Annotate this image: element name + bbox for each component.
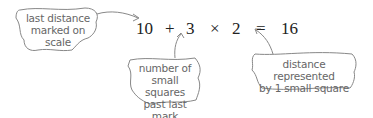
annotation-last-distance: last distance marked on scale [22,12,94,48]
equation-term-10: 10 [136,19,153,39]
annotation-line: marked on [22,24,94,36]
equation-times: × [210,19,220,39]
annotation-line: mark [132,110,198,118]
annotation-line: scale [22,36,94,48]
annotation-line: distance represented [254,58,354,82]
annotation-line: small squares [132,74,198,98]
equation-term-3: 3 [186,19,195,39]
annotation-small-squares: number of small squares past last mark [132,62,198,118]
arrow-to-10 [97,12,138,18]
equation-term-2: 2 [232,19,241,39]
equation-result-16: 16 [281,19,298,39]
annotation-distance-per-square: distance represented by 1 small square [254,58,354,94]
annotation-line: by 1 small square [254,82,354,94]
equation-plus: + [165,19,175,39]
equation-equals: = [256,19,266,39]
annotation-line: last distance [22,12,94,24]
annotation-line: past last [132,98,198,110]
annotation-line: number of [132,62,198,74]
arrow-to-3 [175,34,181,58]
